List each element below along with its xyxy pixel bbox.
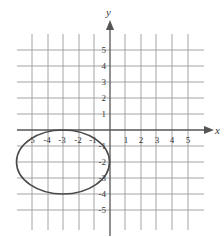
svg-text:2: 2 <box>139 135 144 145</box>
y-axis-label: y <box>105 6 111 18</box>
y-axis-arrow-icon <box>106 20 114 30</box>
x-axis-label: x <box>214 124 220 136</box>
x-tick-labels: -5 -4 -3 -2 -1 1 2 3 4 5 <box>27 135 191 145</box>
svg-text:5: 5 <box>186 135 191 145</box>
svg-text:-2: -2 <box>99 157 107 167</box>
svg-text:-3: -3 <box>58 135 66 145</box>
x-axis-arrow-icon <box>204 126 214 134</box>
svg-text:3: 3 <box>155 135 160 145</box>
svg-text:1: 1 <box>124 135 129 145</box>
svg-text:1: 1 <box>102 109 107 119</box>
svg-text:5: 5 <box>102 45 107 55</box>
coordinate-plane: x y -5 -4 -3 -2 -1 1 2 3 4 5 5 4 3 2 1 -… <box>0 0 224 237</box>
svg-text:-2: -2 <box>74 135 82 145</box>
svg-text:-5: -5 <box>99 205 107 215</box>
svg-text:3: 3 <box>102 77 107 87</box>
svg-text:4: 4 <box>102 61 107 71</box>
svg-text:4: 4 <box>170 135 175 145</box>
svg-text:-4: -4 <box>43 135 51 145</box>
svg-text:2: 2 <box>102 93 107 103</box>
svg-text:-4: -4 <box>99 189 107 199</box>
